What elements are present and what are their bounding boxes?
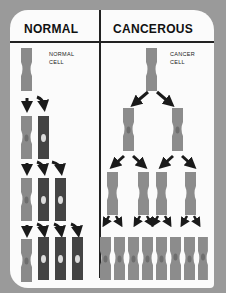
normal-arrows-2 (27, 162, 61, 170)
cancer-gen3 (107, 172, 196, 215)
cancer-arrows-1 (135, 92, 170, 103)
normal-arrows-3 (27, 224, 78, 232)
normal-arrows-1 (27, 97, 44, 107)
normal-gen3 (21, 178, 66, 221)
normal-gen4 (21, 237, 83, 282)
normal-gen1 (21, 48, 32, 91)
cancer-gen1 (146, 48, 157, 91)
diagram-card: NORMAL CANCEROUS NORMAL CELL CANCER CELL (10, 10, 214, 288)
normal-gen2 (21, 116, 49, 159)
cancer-gen2 (123, 108, 183, 151)
cancer-gen4 (100, 237, 208, 280)
cancer-arrows-2 (114, 156, 192, 165)
cell-division-illustration (10, 10, 214, 288)
cancer-arrows-3 (105, 216, 198, 223)
